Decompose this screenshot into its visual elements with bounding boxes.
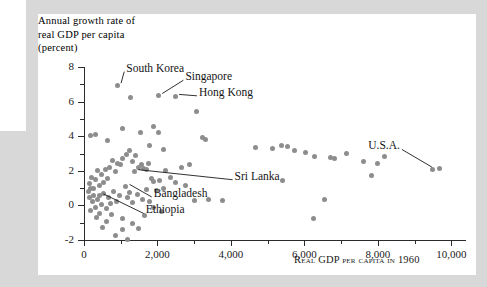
- data-point: [109, 212, 114, 217]
- data-point: [120, 227, 125, 232]
- data-point: [163, 168, 168, 173]
- data-point: [86, 189, 91, 194]
- data-point: [311, 216, 316, 221]
- data-point: [105, 138, 110, 143]
- data-point: [179, 165, 184, 170]
- data-point: [105, 176, 110, 181]
- data-point: [114, 199, 119, 204]
- annotation-label: South Korea: [126, 62, 184, 74]
- data-point: [312, 154, 317, 159]
- data-point: [90, 199, 95, 204]
- data-point: [132, 169, 137, 174]
- data-point: [220, 198, 225, 203]
- figure-card: Annual growth rate of real GDP per capit…: [38, 14, 476, 275]
- data-point: [127, 148, 132, 153]
- data-point: [253, 145, 258, 150]
- data-point: [146, 161, 151, 166]
- page-notch: [0, 0, 26, 131]
- data-point: [151, 179, 156, 184]
- data-point: [173, 180, 178, 185]
- data-point: [382, 154, 387, 159]
- annotation-label: U.S.A.: [338, 139, 400, 151]
- data-point: [279, 143, 284, 148]
- data-point: [270, 146, 275, 151]
- data-point: [103, 167, 108, 172]
- data-point: [88, 208, 93, 213]
- annotation-label: Ethiopia: [146, 203, 185, 215]
- data-point: [332, 156, 337, 161]
- data-point: [144, 187, 149, 192]
- data-point: [292, 148, 297, 153]
- data-point: [95, 197, 100, 202]
- data-point: [104, 206, 109, 211]
- data-point: [157, 178, 162, 183]
- data-point: [168, 175, 173, 180]
- data-point: [97, 183, 102, 188]
- data-point: [130, 159, 135, 164]
- data-point: [107, 165, 112, 170]
- data-point: [430, 167, 435, 172]
- data-point: [156, 93, 161, 98]
- data-point: [285, 144, 290, 149]
- data-point: [140, 197, 145, 202]
- data-point: [120, 216, 125, 221]
- data-point: [111, 189, 116, 194]
- data-point: [130, 221, 135, 226]
- data-point: [99, 172, 104, 177]
- data-point: [108, 201, 113, 206]
- data-point: [344, 151, 349, 156]
- data-point: [156, 130, 161, 135]
- data-point: [87, 195, 92, 200]
- data-point: [187, 162, 192, 167]
- data-point: [144, 167, 149, 172]
- data-point: [135, 192, 140, 197]
- data-point: [125, 237, 130, 242]
- annotation-label: Hong Kong: [199, 86, 253, 98]
- data-point: [100, 225, 105, 230]
- data-point: [88, 133, 93, 138]
- data-point: [194, 109, 199, 114]
- data-point: [147, 143, 152, 148]
- data-point: [437, 166, 442, 171]
- data-point: [125, 195, 130, 200]
- data-point: [113, 169, 118, 174]
- data-point: [375, 161, 380, 166]
- data-point: [115, 83, 120, 88]
- annotation-label: Bangladesh: [154, 187, 208, 199]
- data-point: [115, 161, 120, 166]
- data-point: [361, 159, 366, 164]
- data-point: [280, 178, 285, 183]
- data-points: [38, 14, 476, 275]
- data-point: [104, 219, 109, 224]
- data-point: [93, 205, 98, 210]
- data-point: [133, 153, 138, 158]
- data-point: [106, 195, 111, 200]
- data-point: [369, 173, 374, 178]
- data-point: [120, 126, 125, 131]
- data-point: [113, 233, 118, 238]
- data-point: [117, 193, 122, 198]
- data-point: [173, 94, 178, 99]
- data-point: [123, 184, 128, 189]
- annotation-label: Sri Lanka: [235, 170, 280, 182]
- data-point: [93, 132, 98, 137]
- data-point: [322, 197, 327, 202]
- scatter-plot: Annual growth rate of real GDP per capit…: [38, 14, 476, 275]
- annotation-label: Singapore: [185, 70, 232, 82]
- data-point: [138, 130, 143, 135]
- data-point: [136, 226, 141, 231]
- data-point: [120, 156, 125, 161]
- data-point: [94, 215, 99, 220]
- data-point: [128, 95, 133, 100]
- data-point: [203, 137, 208, 142]
- data-point: [130, 200, 135, 205]
- data-point: [303, 150, 308, 155]
- data-point: [151, 124, 156, 129]
- data-point: [161, 147, 166, 152]
